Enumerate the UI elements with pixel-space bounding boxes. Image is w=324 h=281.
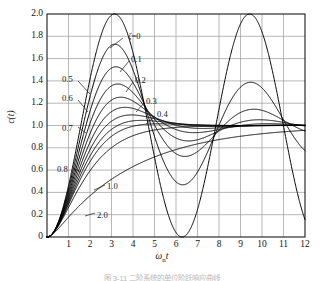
y-tick-label: 0.8 — [10, 143, 43, 153]
x-tick-label: 5 — [152, 240, 157, 250]
x-tick-label: 12 — [300, 240, 310, 250]
x-tick-label: 6 — [174, 240, 179, 250]
chart-canvas — [0, 0, 324, 281]
x-tick-label: 1 — [66, 240, 71, 250]
curve-label-zeta-08: 0.8 — [57, 165, 68, 174]
x-tick-label: 4 — [131, 240, 136, 250]
y-axis-title: c(t) — [6, 110, 16, 123]
curve-label-zeta-02: 0.2 — [135, 76, 146, 85]
y-tick-label: 1.2 — [10, 98, 43, 108]
curve-label-zeta-04: 0.4 — [157, 110, 168, 119]
curve-label-zeta-01: 0.1 — [131, 55, 142, 64]
x-tick-label: 8 — [217, 240, 222, 250]
y-tick-label: 1.8 — [10, 32, 43, 42]
curve-label-zeta-07: 0.7 — [62, 124, 73, 133]
figure-container: 00.20.40.60.81.01.21.41.61.82.0 12345678… — [0, 0, 324, 281]
x-axis-title: ωnt — [0, 251, 324, 264]
curve-label-zeta-06: 0.6 — [62, 94, 73, 103]
y-tick-label: 1.4 — [10, 76, 43, 86]
y-tick-label: 0.6 — [10, 165, 43, 175]
curve-label-zeta-10: 1.0 — [107, 182, 118, 191]
y-tick-label: 0.2 — [10, 210, 43, 220]
y-tick-label: 0 — [10, 232, 43, 242]
curve-label-zeta-20: 2.0 — [97, 211, 108, 220]
figure-caption: 图 3-11 二阶系统的单位阶跃响应曲线 — [0, 272, 324, 281]
x-tick-label: 9 — [238, 240, 243, 250]
x-tick-label: 10 — [257, 240, 267, 250]
curve-label-zeta-0: ζ=0 — [128, 32, 141, 41]
y-tick-label: 2.0 — [10, 9, 43, 19]
y-tick-label: 0.4 — [10, 188, 43, 198]
x-tick-label: 2 — [88, 240, 93, 250]
x-tick-label: 7 — [195, 240, 200, 250]
y-tick-label: 1.6 — [10, 54, 43, 64]
x-tick-label: 11 — [279, 240, 288, 250]
x-tick-label: 3 — [109, 240, 114, 250]
curve-label-zeta-03: 0.3 — [146, 97, 157, 106]
curve-label-zeta-05: 0.5 — [62, 75, 73, 84]
